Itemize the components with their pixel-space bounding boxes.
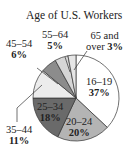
label-35-44: 35–4411%	[6, 124, 32, 146]
label-25-34: 25–3418%	[37, 101, 63, 123]
label-45-54: 45–546%	[6, 38, 32, 60]
label-65-over: 65 andover 3%	[86, 30, 123, 52]
label-55-64: 55–645%	[42, 29, 68, 51]
label-20-24: 20–2420%	[66, 116, 92, 138]
label-16-19: 16–1937%	[86, 76, 112, 98]
